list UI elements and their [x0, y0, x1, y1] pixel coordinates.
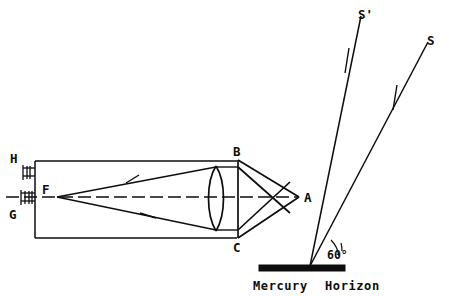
label-prism-b: B — [233, 144, 241, 159]
label-eyepiece-g: G — [9, 207, 17, 222]
reflected-ray-s-prime — [310, 16, 361, 266]
optical-diagram-figure: H G F B C A S S' 60° Mercury Horizon — [0, 0, 449, 296]
label-angle-60: 60° — [327, 248, 348, 262]
lower-ray-direction-barb — [140, 213, 156, 218]
eyepiece-fitting-h — [23, 165, 35, 180]
prism-face-ca — [238, 197, 299, 238]
label-prism-apex-a: A — [304, 190, 312, 205]
reflected-ray-s-prime-barb — [345, 48, 349, 73]
label-ray-s-prime: S' — [358, 7, 373, 22]
diagram-canvas: H G F B C A S S' 60° Mercury Horizon — [0, 0, 449, 296]
label-prism-c: C — [233, 240, 241, 255]
biconvex-objective-lens — [209, 166, 224, 231]
upper-cone-ray — [57, 167, 216, 197]
label-horizon: Horizon — [325, 279, 380, 293]
prism-face-ba — [238, 160, 299, 197]
incident-ray-s — [310, 42, 428, 266]
label-eyepiece-h: H — [10, 151, 18, 166]
sky-rays — [310, 16, 428, 266]
mercury-horizon-bar — [259, 265, 345, 271]
lower-cone-ray — [57, 197, 216, 230]
lens-right-face — [216, 166, 224, 231]
triangular-prism — [238, 160, 299, 238]
label-mercury: Mercury — [253, 279, 308, 293]
label-ray-s: S — [427, 33, 435, 48]
label-focus-f: F — [42, 182, 50, 197]
lens-left-face — [209, 166, 217, 231]
telescope-tube — [35, 161, 237, 238]
